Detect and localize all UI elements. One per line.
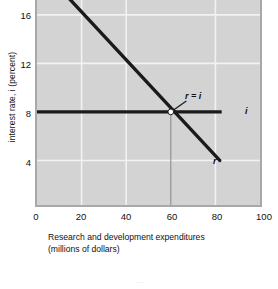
- x-tick-label-60: 60: [157, 211, 187, 222]
- x-tick-label-100: 100: [249, 211, 278, 222]
- x-axis-title-line-2: (millions of dollars): [48, 243, 263, 255]
- cropped-footer-text: …: [0, 281, 278, 289]
- chart-figure: 16 12 8 4 interest rate, i (percent) 0 2…: [0, 0, 278, 289]
- x-tick-label-80: 80: [202, 211, 232, 222]
- x-tick-label-0: 0: [21, 211, 51, 222]
- x-axis-title-line-1: Research and development expenditures: [48, 231, 263, 243]
- cropped-footer-text-content: …: [0, 281, 278, 285]
- equilibrium-annotation-label: r = i: [185, 91, 201, 101]
- series-label-i: i: [245, 106, 248, 116]
- x-axis-title: Research and development expenditures (m…: [48, 231, 263, 255]
- series-label-r: r: [213, 156, 217, 166]
- x-tick-label-20: 20: [66, 211, 96, 222]
- x-tick-label-40: 40: [111, 211, 141, 222]
